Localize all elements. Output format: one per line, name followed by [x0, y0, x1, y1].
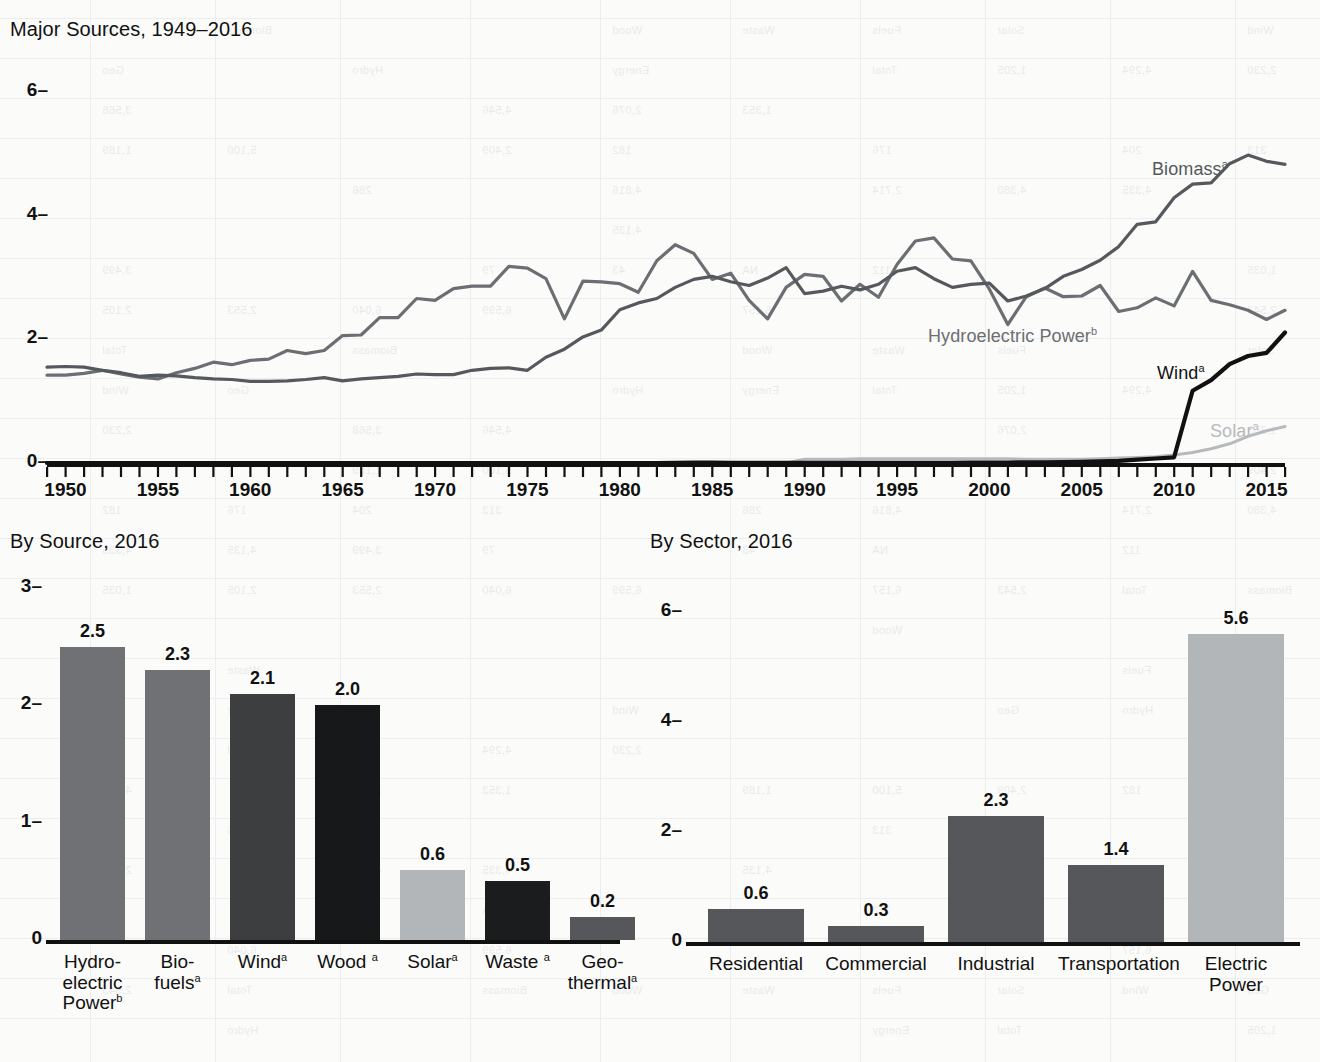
wind-label: Winda — [1157, 362, 1205, 384]
by-source-category-line: Wood a — [301, 952, 394, 973]
by-source-category-line: Waste a — [471, 952, 564, 973]
by-source-axis-line — [46, 940, 620, 944]
by-sector-bar-category: Industrial — [938, 954, 1054, 975]
by-source-y-tick-0: 0 — [0, 927, 42, 949]
by-source-category-line: Hydro- — [46, 952, 139, 973]
by-source-bar-category: Bio-fuelsa — [131, 952, 224, 993]
by-source-bar — [60, 647, 125, 940]
by-sector-chart: By Sector, 2016 02–4–6–0.6Residential0.3… — [640, 520, 1320, 1062]
by-sector-category-line: Power — [1178, 975, 1294, 996]
by-source-bar — [570, 917, 635, 940]
wind-label-text: Wind — [1157, 363, 1198, 383]
by-source-bar — [315, 705, 380, 940]
by-sector-bar-value: 0.3 — [806, 900, 946, 921]
by-sector-category-line: Residential — [698, 954, 814, 975]
by-sector-bar — [708, 909, 804, 942]
line-x-tick-1970: 1970 — [390, 479, 480, 501]
by-source-category-line: Solara — [386, 952, 479, 973]
line-x-tick-1960: 1960 — [205, 479, 295, 501]
by-source-bar-category: Winda — [216, 952, 309, 973]
by-source-y-tick-2: 2– — [0, 692, 42, 714]
line-x-tick-1990: 1990 — [760, 479, 850, 501]
by-sector-bar-value: 5.6 — [1166, 608, 1306, 629]
by-source-bar-category: Hydro-electricPowerb — [46, 952, 139, 1014]
by-sector-category-line: Industrial — [938, 954, 1054, 975]
by-sector-bar-category: ElectricPower — [1178, 954, 1294, 995]
by-source-category-line: Bio- — [131, 952, 224, 973]
by-sector-category-line: Transportation — [1058, 954, 1174, 975]
by-source-bar-category: Geo-thermala — [556, 952, 649, 993]
by-source-category-line: Winda — [216, 952, 309, 973]
by-source-category-footnote: a — [544, 951, 550, 963]
hydro-label-footnote: b — [1091, 325, 1097, 337]
by-sector-category-line: Electric — [1178, 954, 1294, 975]
line-x-tick-1995: 1995 — [852, 479, 942, 501]
line-y-tick-0: 0– — [0, 450, 48, 472]
by-source-bar-value: 0.5 — [463, 855, 572, 876]
line-y-tick-6: 6– — [0, 79, 48, 101]
line-x-tick-1975: 1975 — [482, 479, 572, 501]
solar-label: Solara — [1210, 420, 1259, 442]
by-source-chart: By Source, 2016 01–2–3–2.5Hydro-electric… — [0, 520, 640, 1062]
biomass-label-text: Biomass — [1152, 159, 1222, 179]
line-y-tick-2: 2– — [0, 326, 48, 348]
by-source-category-footnote: a — [195, 972, 201, 984]
by-source-category-footnote: a — [372, 951, 378, 963]
line-x-tick-1950: 1950 — [20, 479, 110, 501]
biomass-label: Biomassa — [1152, 158, 1228, 180]
by-sector-bar — [1068, 865, 1164, 942]
line-x-tick-1985: 1985 — [667, 479, 757, 501]
by-source-bar — [400, 870, 465, 940]
by-sector-bar-value: 1.4 — [1046, 839, 1186, 860]
wind-label-footnote: a — [1198, 362, 1204, 374]
by-sector-category-line: Commercial — [818, 954, 934, 975]
by-source-category-footnote: b — [116, 992, 122, 1004]
by-sector-plot: 02–4–6–0.6Residential0.3Commercial2.3Ind… — [640, 520, 1320, 1062]
by-source-bar — [485, 881, 550, 940]
by-sector-bar-category: Commercial — [818, 954, 934, 975]
line-x-tick-1965: 1965 — [298, 479, 388, 501]
by-source-bar-value: 2.0 — [293, 679, 402, 700]
by-source-bar — [145, 670, 210, 940]
line-chart-plot — [0, 0, 1320, 500]
by-sector-bar-category: Transportation — [1058, 954, 1174, 975]
by-source-y-tick-3: 3– — [0, 575, 42, 597]
by-sector-y-tick-0: 0 — [640, 929, 682, 951]
by-source-category-line: fuelsa — [131, 973, 224, 994]
by-source-category-line: electric — [46, 973, 139, 994]
major-sources-chart: Major Sources, 1949–2016 Biomassa Hydroe… — [0, 0, 1320, 500]
by-source-bar-category: Waste a — [471, 952, 564, 973]
by-source-category-line: Geo- — [556, 952, 649, 973]
by-source-y-tick-1: 1– — [0, 810, 42, 832]
line-x-tick-2005: 2005 — [1037, 479, 1127, 501]
by-source-category-footnote: a — [631, 972, 637, 984]
by-source-bar-category: Wood a — [301, 952, 394, 973]
by-source-bar — [230, 694, 295, 940]
line-x-tick-2015: 2015 — [1222, 479, 1312, 501]
line-x-tick-1955: 1955 — [113, 479, 203, 501]
line-x-tick-2000: 2000 — [944, 479, 1034, 501]
by-sector-bar — [948, 816, 1044, 943]
by-source-plot: 01–2–3–2.5Hydro-electricPowerb2.3Bio-fue… — [0, 520, 640, 1062]
line-x-tick-1980: 1980 — [575, 479, 665, 501]
by-sector-bar-value: 0.6 — [686, 883, 826, 904]
by-sector-y-tick-4: 4– — [640, 709, 682, 731]
hydroelectric-power-label: Hydroelectric Powerb — [928, 325, 1097, 347]
by-sector-y-tick-6: 6– — [640, 599, 682, 621]
by-sector-bar — [1188, 634, 1284, 942]
line-y-tick-4: 4– — [0, 203, 48, 225]
by-sector-bar-value: 2.3 — [926, 790, 1066, 811]
by-source-category-line: thermala — [556, 973, 649, 994]
by-source-bar-value: 2.3 — [123, 644, 232, 665]
by-source-bar-value: 2.5 — [38, 621, 147, 642]
biomass-label-footnote: a — [1222, 158, 1228, 170]
solar-label-footnote: a — [1253, 420, 1259, 432]
by-source-bar-category: Solara — [386, 952, 479, 973]
by-sector-bar — [828, 926, 924, 943]
by-source-category-footnote: a — [281, 951, 287, 963]
line-x-tick-2010: 2010 — [1129, 479, 1219, 501]
by-sector-axis-line — [686, 942, 1300, 946]
hydro-label-text: Hydroelectric Power — [928, 326, 1091, 346]
by-source-category-line: Powerb — [46, 993, 139, 1014]
by-source-category-footnote: a — [452, 951, 458, 963]
